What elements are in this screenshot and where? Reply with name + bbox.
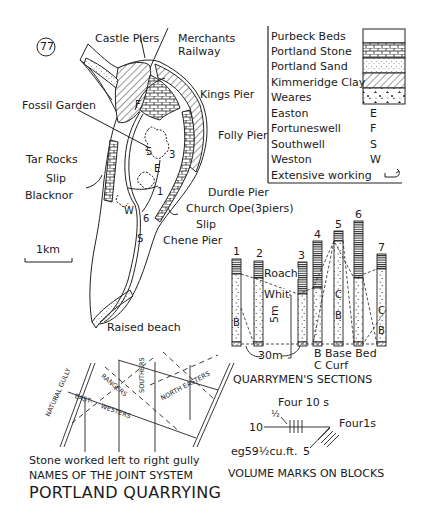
figure-title: PORTLAND QUARRYING bbox=[29, 485, 221, 501]
volume-marks-diagram bbox=[264, 417, 339, 448]
section-col-3: 3 bbox=[298, 250, 305, 261]
bed-label-c-col5: C bbox=[335, 290, 342, 300]
map-marker-6: 6 bbox=[143, 214, 149, 224]
label-chene-pier: Chene Pier bbox=[163, 235, 222, 246]
section-col-2: 2 bbox=[256, 248, 263, 259]
label-slip-east: Slip bbox=[196, 219, 216, 230]
vm-example: eg59½cu.ft. bbox=[231, 446, 297, 457]
vm-four-tens: Four 10 s bbox=[278, 397, 329, 408]
map-marker-f: F bbox=[135, 100, 141, 110]
vm-four-ones: Four1s bbox=[339, 418, 376, 429]
map-marker-5: 5 bbox=[146, 147, 152, 157]
legend-symbol-s: S bbox=[370, 139, 377, 150]
section-col-1: 1 bbox=[233, 246, 240, 257]
label-merchants: Merchants bbox=[178, 33, 235, 44]
label-castle-piers: Castle Piers bbox=[95, 33, 159, 44]
volume-marks-title: VOLUME MARKS ON BLOCKS bbox=[228, 468, 384, 479]
map-marker-1: 1 bbox=[157, 187, 163, 197]
key-base-bed: B Base Bed bbox=[314, 348, 377, 359]
section-col-5: 5 bbox=[335, 219, 342, 230]
js-southers: SOUTHERS bbox=[139, 357, 146, 393]
legend-symbol-w: W bbox=[370, 154, 381, 165]
map-marker-w: W bbox=[124, 206, 134, 216]
portland-map bbox=[78, 28, 207, 328]
label-blacknor: Blacknor bbox=[25, 190, 73, 201]
extensive-working-icon bbox=[385, 169, 399, 177]
sections-title: QUARRYMEN'S SECTIONS bbox=[233, 374, 372, 385]
legend-kimmeridge-clay: Kimmeridge Clay bbox=[271, 77, 365, 88]
purbeck-beds-swatch bbox=[363, 29, 405, 43]
section-col-7: 7 bbox=[378, 242, 385, 253]
label-raised-beach: Raised beach bbox=[107, 322, 181, 333]
map-marker-s: S bbox=[137, 234, 143, 244]
legend-swatches bbox=[363, 29, 405, 104]
bed-label-c-col7: C bbox=[378, 306, 385, 316]
label-tar-rocks: Tar Rocks bbox=[26, 154, 78, 165]
portland-sand-swatch bbox=[363, 58, 405, 73]
scale-bar-1km bbox=[25, 258, 72, 262]
weares-swatch bbox=[363, 88, 405, 104]
legend-fortuneswell: Fortuneswell bbox=[271, 123, 341, 134]
map-marker-e: E bbox=[154, 164, 160, 174]
section-col-4: 4 bbox=[314, 229, 321, 240]
vm-five: 5 bbox=[303, 446, 310, 457]
label-railway: Railway bbox=[178, 46, 221, 57]
legend-symbol-f: F bbox=[370, 123, 376, 134]
section-col-6: 6 bbox=[355, 209, 362, 220]
key-curf: C Curf bbox=[314, 360, 348, 371]
bed-label-whit: Whit bbox=[264, 289, 289, 300]
figure-number: 77 bbox=[40, 41, 54, 52]
legend-southwell: Southwell bbox=[271, 139, 325, 150]
legend-symbol-e: E bbox=[370, 108, 377, 119]
bed-label-roach: Roach bbox=[264, 268, 298, 279]
bed-label-b-col5: B bbox=[335, 311, 342, 321]
legend-portland-stone: Portland Stone bbox=[271, 46, 352, 57]
label-scale-1km: 1km bbox=[36, 244, 60, 255]
label-fossil-garden: Fossil Garden bbox=[22, 100, 96, 111]
joint-system-title: NAMES OF THE JOINT SYSTEM bbox=[29, 470, 193, 481]
label-slip-west: Slip bbox=[46, 173, 66, 184]
legend-purbeck-beds: Purbeck Beds bbox=[271, 31, 346, 42]
vm-half: ½ bbox=[271, 410, 280, 419]
label-folly-pier: Folly Pier bbox=[218, 130, 268, 141]
joint-system-note: Stone worked left to right gully bbox=[29, 455, 200, 466]
kimmeridge-clay-swatch bbox=[363, 73, 405, 88]
bed-label-b-col1: B bbox=[233, 318, 240, 328]
legend-extensive-working: Extensive working bbox=[271, 170, 372, 181]
vertical-scale-5m: 5m bbox=[269, 305, 280, 323]
label-durdle-pier: Durdle Pier bbox=[208, 187, 269, 198]
legend-easton: Easton bbox=[271, 108, 308, 119]
label-church-ope: Church Ope(3piers) bbox=[186, 203, 293, 214]
vm-ten: 10 bbox=[249, 422, 263, 433]
legend-portland-sand: Portland Sand bbox=[271, 61, 348, 72]
legend-weares: Weares bbox=[271, 92, 312, 103]
label-kings-pier: Kings Pier bbox=[200, 89, 254, 100]
map-marker-3: 3 bbox=[169, 150, 175, 160]
horizontal-scale-30m: 30m bbox=[258, 350, 283, 361]
quarrymens-sections bbox=[232, 221, 386, 358]
portland-stone-swatch bbox=[363, 43, 405, 58]
bed-label-b-col7: B bbox=[378, 326, 385, 336]
legend-weston: Weston bbox=[271, 154, 312, 165]
